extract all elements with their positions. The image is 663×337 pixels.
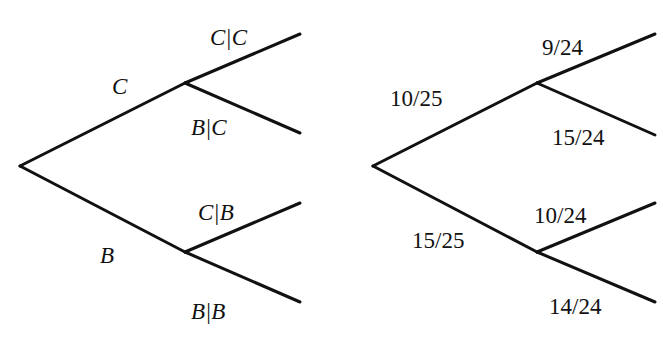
- label-9-24: 9/24: [542, 36, 583, 59]
- label-10-24: 10/24: [534, 204, 586, 227]
- label-c-given-b: C|B: [198, 201, 234, 224]
- label-b: B: [100, 244, 114, 267]
- label-14-24: 14/24: [549, 295, 601, 318]
- label-c: C: [112, 75, 127, 98]
- label-15-24: 15/24: [552, 126, 604, 149]
- label-c-given-c: C|C: [210, 26, 247, 49]
- label-15-25: 15/25: [412, 229, 464, 252]
- label-b-given-b: B|B: [191, 300, 225, 323]
- probability-tree-diagram: C B C|C B|C C|B B|B 10/25 15/25 9/24 15/…: [0, 0, 663, 337]
- branch-C: [20, 83, 185, 166]
- label-b-given-c: B|C: [191, 116, 227, 139]
- branch-B: [20, 166, 185, 252]
- branch-B-given-B: [185, 252, 300, 302]
- label-10-25: 10/25: [390, 87, 442, 110]
